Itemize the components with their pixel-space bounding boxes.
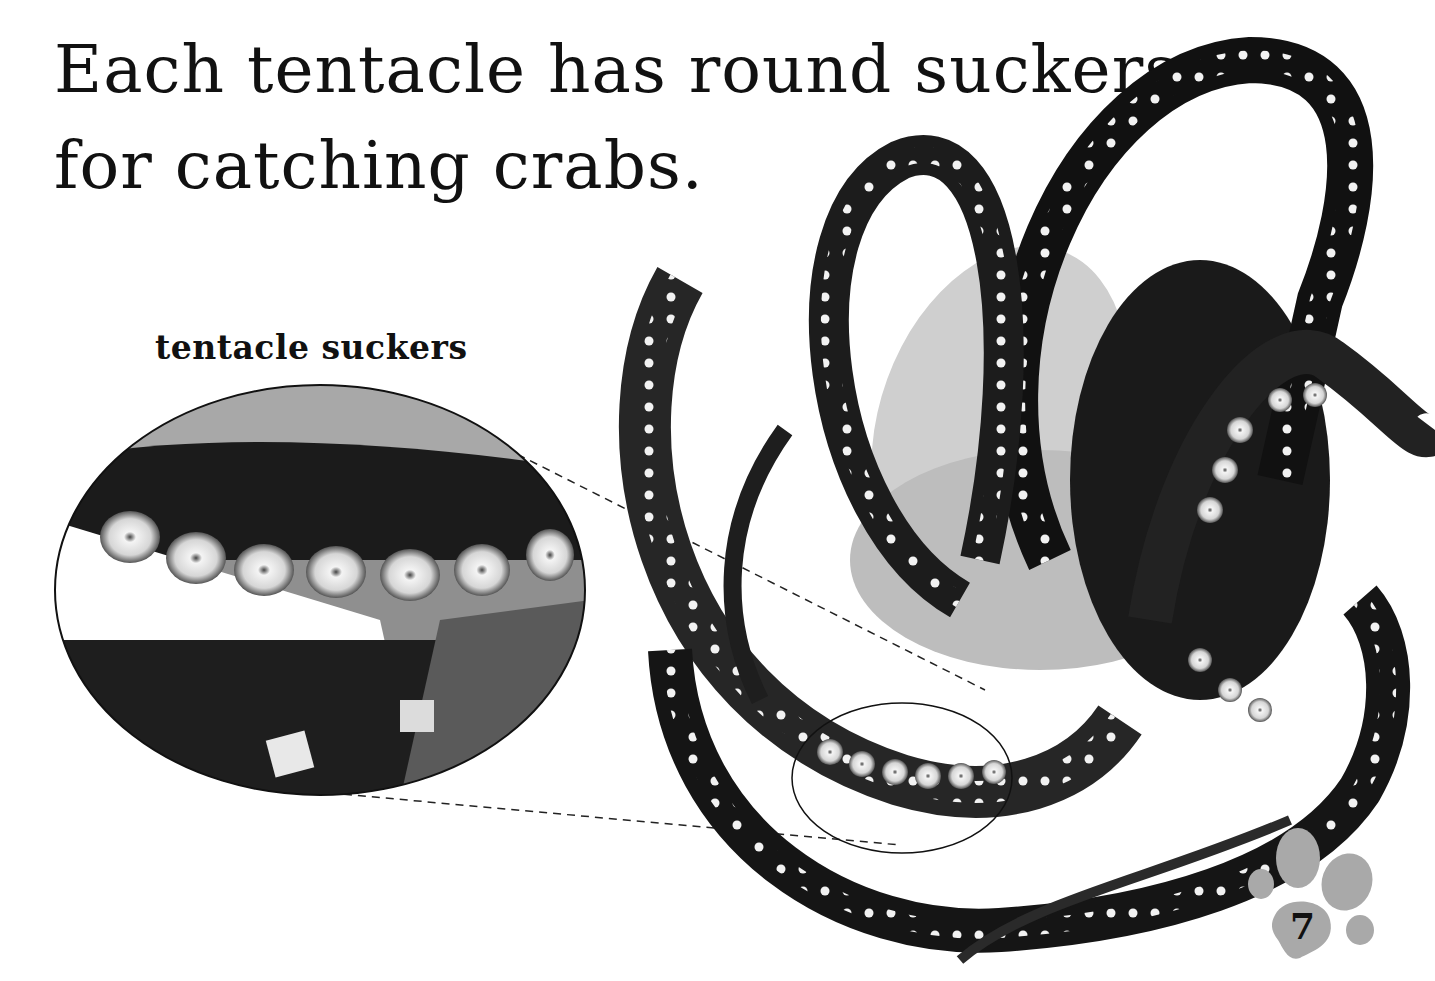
illustration	[0, 0, 1435, 981]
page-number: 7	[1290, 905, 1315, 947]
octopus-photo	[645, 60, 1435, 960]
tentacle-suckers-closeup	[50, 380, 590, 800]
